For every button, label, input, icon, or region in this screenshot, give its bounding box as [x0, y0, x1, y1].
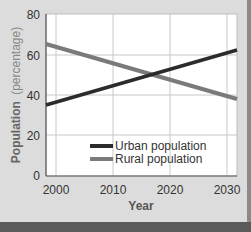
x-tick-labels: 2000 2010 2020 2030 — [43, 183, 241, 197]
x-tick-2030: 2030 — [214, 183, 241, 197]
right-edge-bar — [247, 0, 251, 232]
y-tick-80: 80 — [27, 8, 41, 22]
y-tick-40: 40 — [27, 89, 41, 103]
bottom-edge-bar — [0, 222, 251, 232]
legend-rural-label: Rural population — [115, 152, 202, 166]
y-axis-label-bold: Population — [9, 101, 23, 163]
legend-urban-label: Urban population — [115, 139, 206, 153]
line-chart: 0 20 40 60 80 2000 2010 2020 2030 Year P… — [0, 0, 251, 232]
y-tick-labels: 0 20 40 60 80 — [27, 8, 41, 183]
x-axis-label: Year — [128, 199, 154, 213]
y-tick-20: 20 — [27, 129, 41, 143]
chart-frame: 0 20 40 60 80 2000 2010 2020 2030 Year P… — [0, 0, 251, 232]
svg-text:Population (percentage: Population (percentage) — [9, 27, 23, 163]
x-tick-2020: 2020 — [157, 183, 184, 197]
y-axis-label: Population (percentage) — [9, 27, 23, 163]
x-tick-2010: 2010 — [100, 183, 127, 197]
x-tick-2000: 2000 — [43, 183, 70, 197]
y-tick-60: 60 — [27, 49, 41, 63]
y-axis-label-light: (percentage) — [9, 27, 23, 95]
y-tick-0: 0 — [33, 169, 40, 183]
